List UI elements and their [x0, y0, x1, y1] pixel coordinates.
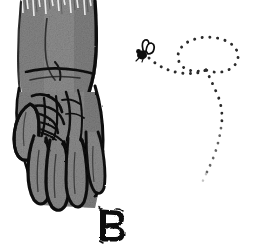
figure-label — [99, 207, 125, 244]
finger-ring — [66, 138, 87, 207]
fly-wing-right — [146, 43, 154, 54]
figure-container: Hand-drawn ink and grey wash illustratio… — [0, 0, 257, 247]
illustration-canvas: B — [0, 0, 257, 247]
